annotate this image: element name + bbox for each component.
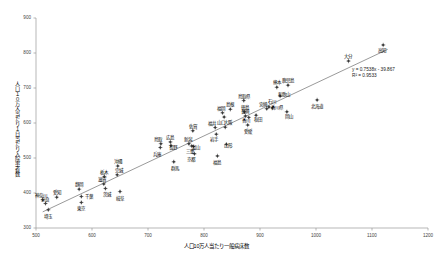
- data-point: [223, 125, 227, 129]
- data-point-label: 佐賀: [189, 124, 197, 129]
- data-point: [172, 160, 176, 164]
- trendline-r-squared: R² = 0.9533: [352, 73, 395, 79]
- trendline: [43, 49, 388, 212]
- data-point-label: 山形: [224, 143, 232, 148]
- data-point-label: 千葉: [85, 194, 93, 199]
- data-point-label: 埼玉: [44, 214, 52, 219]
- data-point-label: 沖縄: [114, 159, 122, 164]
- data-point: [158, 145, 162, 149]
- x-tick-label: 1000: [306, 233, 326, 238]
- data-point: [213, 125, 217, 129]
- data-point: [159, 141, 163, 145]
- y-tick-label: 800: [13, 50, 31, 55]
- data-point: [275, 85, 279, 89]
- x-tick-label: 1100: [362, 233, 382, 238]
- data-point-label: 秋田: [254, 117, 262, 122]
- x-tick-label: 800: [194, 233, 214, 238]
- data-point: [228, 107, 232, 111]
- data-point: [79, 194, 83, 198]
- data-point-label: 長野: [169, 145, 177, 150]
- data-point-label: 岩手: [210, 137, 218, 142]
- y-tick-label: 400: [13, 190, 31, 195]
- data-point: [315, 98, 319, 102]
- data-point-label: 奈良: [41, 197, 49, 202]
- data-point: [191, 129, 195, 133]
- y-tick-label: 300: [13, 225, 31, 230]
- data-point-label: 長崎: [241, 109, 249, 114]
- data-point: [286, 83, 290, 87]
- x-axis-title: 人口10万人当たり一般病床数: [0, 242, 433, 250]
- data-point: [168, 140, 172, 144]
- data-point-label: 群馬: [171, 166, 179, 171]
- data-point: [79, 200, 83, 204]
- data-point: [103, 186, 107, 190]
- data-point: [381, 43, 385, 47]
- data-point-label: 完城: [115, 168, 123, 173]
- data-point-label: 高知: [378, 48, 386, 53]
- data-point: [220, 111, 224, 115]
- y-tick-label: 600: [13, 120, 31, 125]
- data-point: [346, 59, 350, 63]
- data-point-label: 北海道: [311, 104, 323, 109]
- data-point-label: 香川: [242, 118, 250, 123]
- data-point: [242, 98, 246, 102]
- x-tick-label: 700: [138, 233, 158, 238]
- data-point-label: 岡山: [285, 114, 293, 119]
- data-point: [77, 187, 81, 191]
- data-point: [55, 195, 59, 199]
- y-tick-label: 900: [13, 15, 31, 20]
- data-point-label: 福井: [208, 121, 216, 126]
- data-point-label: 新潟: [184, 137, 192, 142]
- y-tick-label: 500: [13, 155, 31, 160]
- data-point: [43, 201, 47, 205]
- data-point: [215, 154, 219, 158]
- data-point-label: 鳥取: [154, 137, 162, 142]
- data-point-label: 石川: [268, 99, 276, 104]
- data-point-label: 和歌山: [278, 92, 290, 97]
- data-point-label: 愛媛: [244, 129, 252, 134]
- data-point-label: 福島: [213, 160, 221, 165]
- data-point-label: 鳥取県: [238, 94, 250, 99]
- x-tick-label: 600: [82, 233, 102, 238]
- trendline-equation-box: y = 0.7538x - 39.867 R² = 0.9533: [352, 67, 395, 79]
- data-point: [245, 123, 249, 127]
- data-point-label: 岐阜: [116, 196, 124, 201]
- data-point-label: 栃木: [100, 170, 108, 175]
- data-point-label: 茨城: [103, 192, 111, 197]
- data-point-label: 大分: [344, 54, 352, 59]
- data-point-label: 宮崎: [259, 102, 267, 107]
- data-point-label: 滋賀: [98, 177, 106, 182]
- data-point-label: 香川県: [271, 105, 283, 110]
- data-point-label: 兵庫: [153, 152, 161, 157]
- data-point: [214, 132, 218, 136]
- data-point-label: 富山: [192, 145, 200, 150]
- data-point-label: 鹿児島: [282, 78, 294, 83]
- data-point-label: 熊本: [273, 80, 281, 85]
- data-point-label: 静岡: [75, 182, 83, 187]
- data-point-label: 京都: [187, 157, 195, 162]
- y-tick-label: 700: [13, 85, 31, 90]
- data-point: [118, 189, 122, 193]
- data-point-label: 広島: [166, 135, 174, 140]
- data-point: [222, 115, 226, 119]
- x-tick-label: 1200: [418, 233, 438, 238]
- data-point-label: 福岡: [217, 106, 225, 111]
- x-tick-label: 900: [250, 233, 270, 238]
- x-tick-label: 500: [26, 233, 46, 238]
- data-point-label: 愛知: [53, 190, 61, 195]
- data-point-label: 東京: [77, 206, 85, 211]
- data-point-label: 島根: [226, 102, 234, 107]
- data-point-label: 大阪: [224, 120, 232, 125]
